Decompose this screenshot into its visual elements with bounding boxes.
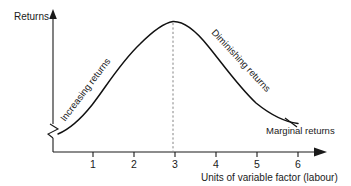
x-tick-label-3: 3 (172, 158, 178, 170)
x-axis-title: Units of variable factor (labour) (201, 172, 338, 183)
diminishing-returns-figure: 1 2 3 4 5 6 Returns Units of variable fa… (0, 0, 351, 186)
y-axis-title: Returns (14, 11, 49, 22)
x-tick-label-6: 6 (295, 158, 301, 170)
x-tick-label-5: 5 (254, 158, 260, 170)
y-axis (48, 9, 58, 152)
x-axis: 1 2 3 4 5 6 (53, 148, 327, 170)
annotation-marginal-returns: Marginal returns (266, 125, 335, 136)
chart-canvas: 1 2 3 4 5 6 Returns Units of variable fa… (0, 0, 351, 186)
x-tick-label-1: 1 (90, 158, 96, 170)
y-axis-break-icon (48, 124, 58, 138)
x-tick-label-2: 2 (131, 158, 137, 170)
x-tick-label-4: 4 (213, 158, 219, 170)
y-axis-arrow-icon (49, 9, 57, 19)
x-axis-arrow-icon (314, 148, 327, 157)
